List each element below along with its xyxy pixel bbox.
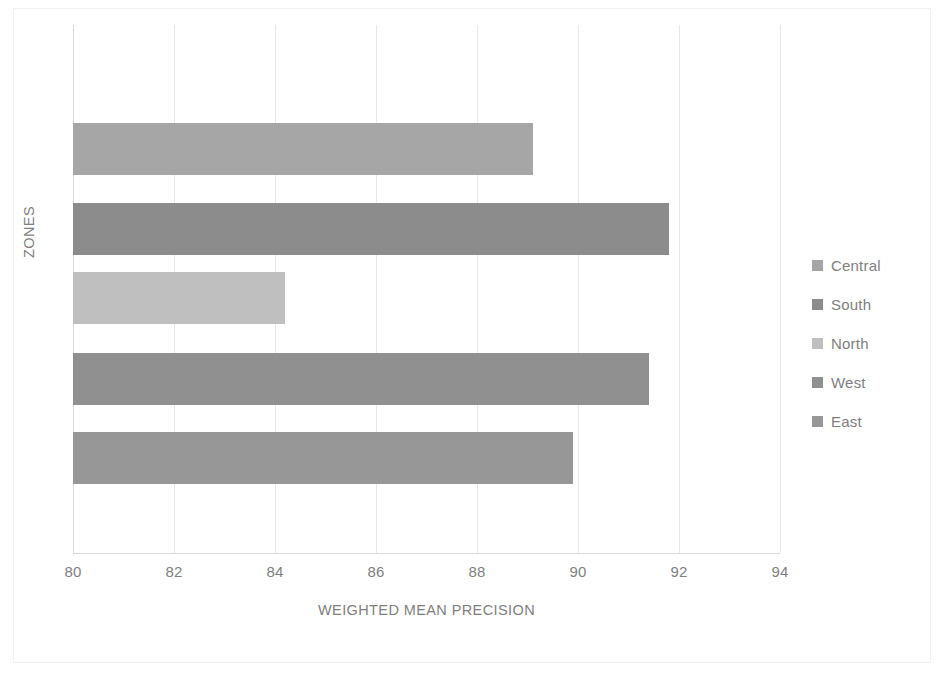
bar-central[interactable] [73,123,533,175]
gridline [780,25,781,553]
gridline [578,25,579,553]
plot-area [73,25,780,553]
x-tick-label: 80 [43,563,103,580]
legend-swatch-icon [812,338,823,349]
x-tick-label: 92 [649,563,709,580]
x-axis-line [73,553,780,554]
legend-item-label: North [831,336,869,351]
x-tick-label: 88 [447,563,507,580]
bar-west[interactable] [73,353,649,405]
legend-item-label: East [831,414,862,429]
legend-item-label: West [831,375,866,390]
x-tick-label: 86 [346,563,406,580]
legend-swatch-icon [812,260,823,271]
y-axis-title: ZONES [21,206,37,258]
x-tick-label: 90 [548,563,608,580]
legend-swatch-icon [812,299,823,310]
legend-item-east[interactable]: East [812,402,927,441]
x-tick-label: 94 [750,563,810,580]
legend: CentralSouthNorthWestEast [812,246,927,441]
x-tick-label: 84 [245,563,305,580]
legend-item-central[interactable]: Central [812,246,927,285]
legend-item-label: Central [831,258,881,273]
legend-item-north[interactable]: North [812,324,927,363]
x-tick-label: 82 [144,563,204,580]
bar-south[interactable] [73,203,669,255]
bar-north[interactable] [73,272,285,324]
gridline [679,25,680,553]
bar-chart: 8082848688909294 WEIGHTED MEAN PRECISION… [0,0,947,681]
legend-item-south[interactable]: South [812,285,927,324]
legend-item-west[interactable]: West [812,363,927,402]
legend-swatch-icon [812,416,823,427]
x-axis-title: WEIGHTED MEAN PRECISION [73,602,780,618]
bar-east[interactable] [73,432,573,484]
legend-swatch-icon [812,377,823,388]
legend-item-label: South [831,297,871,312]
